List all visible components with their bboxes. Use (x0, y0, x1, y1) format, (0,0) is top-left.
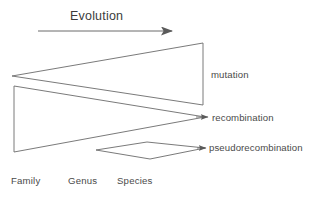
mutation-label: mutation (211, 70, 249, 80)
evolution-diagram: Evolution mutation recombination pseudor… (0, 0, 333, 200)
rank-label-family: Family (11, 176, 40, 186)
evolution-title: Evolution (70, 10, 123, 23)
diagram-canvas (0, 0, 333, 200)
pseudorecombination-diamond (96, 142, 205, 159)
recombination-wedge (14, 86, 205, 152)
pseudorecombination-label: pseudorecombination (209, 143, 303, 153)
recombination-label: recombination (212, 113, 274, 123)
rank-label-species: Species (117, 176, 153, 186)
rank-label-genus: Genus (68, 176, 97, 186)
mutation-wedge (12, 43, 203, 105)
